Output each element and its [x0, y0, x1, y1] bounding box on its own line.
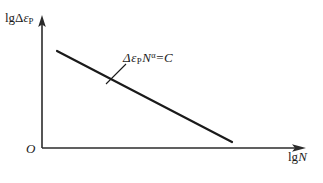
x-axis-label-prefix: lg [288, 149, 298, 164]
equation-n: N [142, 50, 151, 65]
figure-canvas: lgΔεP lgN O ΔεPNα=C [0, 0, 323, 183]
y-axis-label: lgΔεP [5, 11, 34, 26]
equation-constant-c: C [164, 50, 173, 65]
equation-delta-epsilon: Δε [123, 50, 137, 65]
origin-label: O [26, 142, 35, 155]
equation-annotation: ΔεPNα=C [123, 51, 173, 66]
x-axis-label: lgN [288, 150, 307, 163]
plot-area [0, 0, 323, 183]
y-axis-label-subscript: P [29, 16, 34, 26]
y-axis-label-prefix: lgΔ [5, 10, 23, 25]
equation-equals-sign: = [156, 50, 164, 65]
x-axis-label-variable: N [298, 149, 307, 164]
